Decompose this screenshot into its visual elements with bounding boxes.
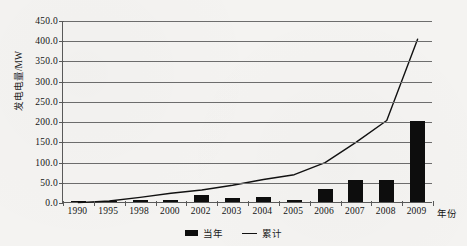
- legend-line-swatch-icon: [242, 233, 257, 234]
- legend-bar-swatch-icon: [185, 230, 198, 236]
- bar: [379, 180, 394, 202]
- gridline: [63, 183, 432, 184]
- bar: [348, 180, 363, 202]
- x-axis-tick-mark: [248, 201, 249, 206]
- y-axis-tick-mark: [59, 21, 64, 22]
- gridline: [63, 21, 432, 22]
- bar: [163, 200, 178, 202]
- x-axis-tick-mark: [125, 201, 126, 206]
- x-axis-tick-label: 1995: [98, 206, 118, 216]
- y-axis-tick-label: 50.0: [12, 178, 58, 188]
- legend-item: 当年: [185, 226, 223, 240]
- y-axis-tick-mark: [59, 122, 64, 123]
- gridline: [63, 41, 432, 42]
- x-axis-tick-label: 2009: [407, 206, 427, 216]
- y-axis-tick-label: 200.0: [12, 117, 58, 127]
- chart-container: 发电电量/MW 0.050.0100.0150.0200.0250.0300.0…: [0, 0, 467, 246]
- y-axis-tick-label: 0.0: [12, 198, 58, 208]
- legend-item: 累计: [242, 226, 282, 240]
- y-axis-tick-mark: [59, 82, 64, 83]
- y-axis-tick-label: 250.0: [12, 97, 58, 107]
- x-axis-tick-label: 2008: [376, 206, 396, 216]
- gridline: [63, 163, 432, 164]
- bar: [71, 201, 86, 202]
- x-axis-tick-mark: [186, 201, 187, 206]
- y-axis-tick-label: 150.0: [12, 137, 58, 147]
- bar: [225, 198, 240, 202]
- x-axis-tick-label: 2002: [191, 206, 211, 216]
- x-axis-tick-mark: [63, 201, 64, 206]
- y-axis-tick-label: 100.0: [12, 158, 58, 168]
- y-axis-tick-labels: 0.050.0100.0150.0200.0250.0300.0350.0400…: [10, 0, 58, 246]
- x-axis-tick-label: 2006: [314, 206, 334, 216]
- cumulative-line: [78, 39, 417, 202]
- x-axis-tick-label: 2005: [283, 206, 303, 216]
- bar: [287, 200, 302, 202]
- y-axis-tick-mark: [59, 142, 64, 143]
- gridline: [63, 61, 432, 62]
- x-axis-tick-label: 1990: [68, 206, 88, 216]
- x-axis-tick-mark: [310, 201, 311, 206]
- x-axis-tick-mark: [156, 201, 157, 206]
- x-axis-tick-mark: [341, 201, 342, 206]
- y-axis-tick-label: 350.0: [12, 56, 58, 66]
- legend-item-label: 累计: [262, 226, 282, 240]
- y-axis-tick-label: 400.0: [12, 36, 58, 46]
- y-axis-tick-mark: [59, 61, 64, 62]
- bar: [102, 201, 117, 202]
- y-axis-tick-mark: [59, 183, 64, 184]
- x-axis-tick-mark: [371, 201, 372, 206]
- chart-legend: 当年累计: [0, 226, 467, 240]
- x-axis-tick-label: 2000: [160, 206, 180, 216]
- gridline: [63, 82, 432, 83]
- bar: [318, 189, 333, 202]
- x-axis-tick-mark: [217, 201, 218, 206]
- x-axis-tick-label: 2004: [253, 206, 273, 216]
- y-axis-tick-label: 300.0: [12, 77, 58, 87]
- y-axis-tick-mark: [59, 102, 64, 103]
- bar: [194, 195, 209, 202]
- bar: [133, 200, 148, 202]
- x-axis-tick-mark: [433, 201, 434, 206]
- bar: [256, 197, 271, 202]
- legend-item-label: 当年: [203, 226, 223, 240]
- gridline: [63, 102, 432, 103]
- bar: [410, 121, 425, 202]
- x-axis-tick-label: 2007: [345, 206, 365, 216]
- x-axis-title: 年份: [437, 206, 457, 220]
- x-axis-tick-label: 1998: [129, 206, 149, 216]
- x-axis-tick-label: 2003: [222, 206, 242, 216]
- x-axis-tick-mark: [94, 201, 95, 206]
- y-axis-tick-mark: [59, 163, 64, 164]
- plot-area: [62, 21, 432, 203]
- gridline: [63, 122, 432, 123]
- x-axis-tick-mark: [402, 201, 403, 206]
- y-axis-tick-label: 450.0: [12, 16, 58, 26]
- cumulative-line-layer: [63, 21, 433, 203]
- x-axis-tick-mark: [279, 201, 280, 206]
- gridline: [63, 142, 432, 143]
- y-axis-tick-mark: [59, 41, 64, 42]
